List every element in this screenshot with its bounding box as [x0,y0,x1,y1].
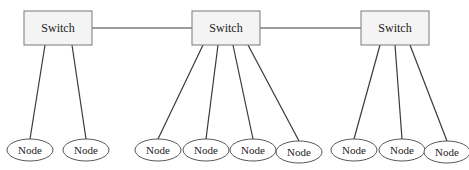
node-link [354,45,380,139]
node-link [158,45,203,139]
node-link [248,45,299,141]
switch-label: Switch [41,21,74,35]
node-link [233,45,253,139]
node-label: Node [435,146,459,158]
node-link [30,45,45,139]
node-label: Node [74,144,98,156]
node-label: Node [146,144,170,156]
switch-label: Switch [378,21,411,35]
switch[interactable]: Switch [24,11,92,45]
switch-label: Switch [209,21,242,35]
switch[interactable]: Switch [361,11,429,45]
node-link [395,45,402,139]
node-label: Node [342,144,366,156]
node-link [72,45,86,139]
node[interactable]: Node [379,139,425,161]
node[interactable]: Node [7,139,53,161]
nodes-layer: NodeNodeNodeNodeNodeNodeNodeNodeNode [7,139,469,163]
node-link [410,45,447,141]
node-label: Node [18,144,42,156]
node[interactable]: Node [276,141,322,163]
node-label: Node [287,146,311,158]
node[interactable]: Node [63,139,109,161]
node-label: Node [241,144,265,156]
node-link [206,45,218,139]
node[interactable]: Node [183,139,229,161]
node[interactable]: Node [331,139,377,161]
node[interactable]: Node [135,139,181,161]
switches-layer: SwitchSwitchSwitch [24,11,429,45]
network-diagram: SwitchSwitchSwitch NodeNodeNodeNodeNodeN… [0,0,469,170]
node-label: Node [194,144,218,156]
node[interactable]: Node [230,139,276,161]
node[interactable]: Node [424,141,469,163]
node-label: Node [390,144,414,156]
switch[interactable]: Switch [192,11,260,45]
